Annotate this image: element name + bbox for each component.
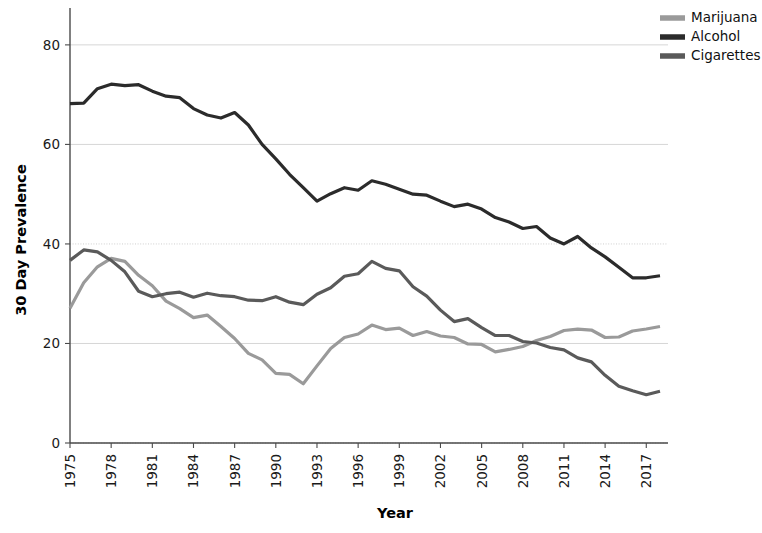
- series-line-alcohol: [70, 84, 660, 278]
- y-tick-label: 0: [51, 435, 60, 451]
- series-line-marijuana: [70, 258, 660, 383]
- y-tick-label: 60: [43, 136, 60, 152]
- x-tick-label: 1990: [268, 454, 284, 488]
- x-tick-label: 1993: [309, 454, 325, 488]
- x-tick-label: 1975: [62, 454, 78, 488]
- y-tick-label: 20: [43, 335, 60, 351]
- x-tick-label: 1996: [350, 454, 366, 488]
- x-tick-label: 1999: [391, 454, 407, 488]
- y-tick-label: 80: [43, 37, 60, 53]
- chart-container: 020406080 197519781981198419871990199319…: [0, 0, 762, 533]
- x-tick-label: 1984: [185, 454, 201, 488]
- legend-label-alcohol: Alcohol: [691, 28, 740, 44]
- legend-label-marijuana: Marijuana: [691, 9, 758, 25]
- x-tick-label: 1981: [144, 454, 160, 488]
- x-tick-label: 2002: [432, 454, 448, 488]
- y-axis-title: 30 Day Prevalence: [13, 164, 29, 316]
- data-series-group: [70, 84, 660, 395]
- gridlines: [70, 45, 668, 443]
- x-axis-title: Year: [376, 505, 414, 521]
- axis-lines: [70, 8, 668, 443]
- x-tick-label: 2008: [515, 454, 531, 488]
- x-tick-label: 2011: [556, 454, 572, 488]
- y-tick-label: 40: [43, 236, 60, 252]
- x-tick-label: 2014: [597, 454, 613, 488]
- series-line-cigarettes: [70, 250, 660, 395]
- x-tick-label: 2017: [638, 454, 654, 488]
- x-tick-label: 2005: [474, 454, 490, 488]
- x-axis-ticks: 1975197819811984198719901993199619992002…: [62, 443, 654, 488]
- x-tick-label: 1978: [103, 454, 119, 488]
- legend-label-cigarettes: Cigarettes: [691, 47, 761, 63]
- legend: MarijuanaAlcoholCigarettes: [660, 9, 761, 63]
- line-chart: 020406080 197519781981198419871990199319…: [0, 0, 762, 533]
- y-axis-ticks: 020406080: [43, 37, 70, 451]
- x-tick-label: 1987: [227, 454, 243, 488]
